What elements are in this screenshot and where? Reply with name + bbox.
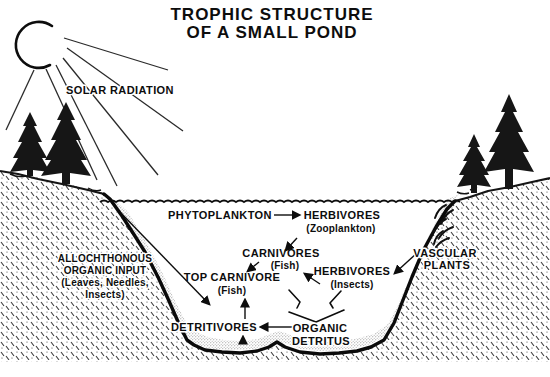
detritivores-label: DETRITIVORES — [171, 321, 257, 333]
allochthonous-label-line3: (Leaves, Needles, — [61, 277, 148, 288]
water-surface — [100, 201, 460, 203]
top-carnivore-detail: (Fish) — [218, 285, 246, 296]
funnel-arrow-to-detritus — [289, 290, 344, 322]
solar-radiation-label: SOLAR RADIATION — [66, 84, 174, 96]
diagram-title-line2: OF A SMALL POND — [186, 23, 357, 42]
herbivores-zooplankton-label: HERBIVORES — [304, 209, 381, 221]
allochthonous-label-line2: ORGANIC INPUT — [64, 265, 147, 276]
vascular-plants-label-line1: VASCULAR — [413, 247, 477, 259]
top-carnivore-label: TOP CARNIVORE — [184, 271, 280, 283]
diagram-title-line1: TROPHIC STRUCTURE — [170, 5, 373, 24]
phytoplankton-label: PHYTOPLANKTON — [168, 209, 272, 221]
trophic-diagram: TROPHIC STRUCTURE OF A SMALL POND SOLAR … — [0, 0, 550, 377]
allochthonous-label-line1: ALLOCHTHONOUS — [58, 253, 152, 264]
herbivores-zooplankton-detail: (Zooplankton) — [306, 223, 375, 234]
carnivores-detail: (Fish) — [271, 260, 299, 271]
herbivores-insects-detail: (Insects) — [331, 279, 374, 290]
organic-detritus-label-line1: ORGANIC — [293, 322, 348, 334]
carnivores-label: CARNIVORES — [242, 247, 319, 259]
sun-icon — [16, 22, 52, 68]
conifer-tree-icon — [10, 94, 534, 193]
arrow-carnivores-to-top-carnivore — [248, 262, 259, 271]
vascular-plants-label-line2: PLANTS — [424, 259, 470, 271]
organic-detritus-label-line2: DETRITUS — [292, 335, 350, 347]
herbivores-insects-label: HERBIVORES — [314, 265, 391, 277]
allochthonous-label-line4: Insects) — [85, 289, 124, 300]
